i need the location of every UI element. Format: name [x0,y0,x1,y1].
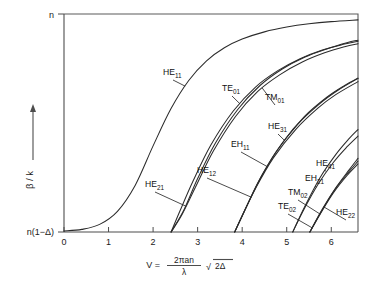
mode-label-subscript: 22 [348,212,356,219]
mode-label-subscript: 31 [280,126,288,133]
radical-icon: √ [206,262,211,272]
mode-label-subscript: 21 [317,178,325,185]
mode-label-subscript: 02 [300,192,308,199]
mode-dispersion-chart: 0123456 β / k n n(1−Δ) HE11TE01TM01HE31E… [0,0,383,282]
mode-label-subscript: 12 [209,170,217,177]
mode-label-subscript: 01 [277,97,285,104]
y-tick-label-top: n [49,10,54,20]
mode-label-subscript: 21 [157,184,165,191]
chart-svg: 0123456 β / k n n(1−Δ) HE11TE01TM01HE31E… [0,0,383,282]
x-tick-label-6: 6 [329,237,334,247]
mode-label-subscript: 11 [175,72,182,79]
y-axis-title: β / k [24,171,35,189]
chart-background [0,0,383,282]
x-axis-formula-numerator: 2πan [174,255,194,265]
x-axis-formula-lhs: V = [146,260,160,270]
x-tick-label-3: 3 [195,237,200,247]
x-tick-label-5: 5 [284,237,289,247]
mode-label-subscript: 01 [233,88,241,95]
x-tick-label-0: 0 [61,237,66,247]
y-tick-label-bottom: n(1−Δ) [27,227,54,237]
mode-label-subscript: 02 [289,206,297,213]
mode-label-subscript: 11 [243,144,250,151]
x-tick-label-2: 2 [151,237,156,247]
x-tick-label-1: 1 [106,237,111,247]
x-axis-formula-radicand: 2Δ [215,261,226,271]
x-tick-label-4: 4 [240,237,245,247]
mode-label-subscript: 41 [328,163,336,170]
